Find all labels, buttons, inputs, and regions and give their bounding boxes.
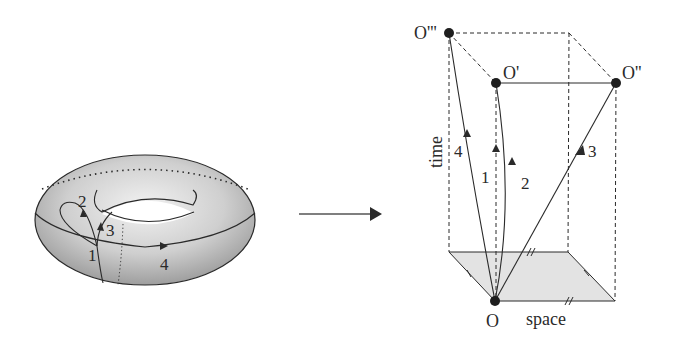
mapping-arrow: [299, 207, 382, 221]
worldline-label-4: 4: [454, 142, 463, 161]
event-o-prime: [491, 78, 501, 88]
space-plane: [449, 252, 615, 301]
torus-diagram: 2 3 1 4: [35, 155, 255, 285]
label-o-prime: O': [503, 63, 519, 83]
event-origin: [490, 296, 500, 306]
torus-label-1: 1: [88, 246, 97, 265]
label-origin: O: [486, 311, 499, 331]
right-arrow-icon: [370, 207, 382, 221]
worldline-1-arrowhead: [492, 144, 500, 152]
worldline-3-arrowhead: [575, 145, 585, 155]
label-o-double-prime: O'': [622, 63, 642, 83]
torus-label-4: 4: [160, 255, 169, 274]
worldline-label-2: 2: [521, 174, 530, 193]
worldline-2-arrowhead: [508, 157, 516, 165]
event-o-triple-prime: [444, 28, 454, 38]
worldline-label-1: 1: [481, 168, 490, 187]
axis-label-time: time: [426, 136, 446, 168]
worldline-label-3: 3: [588, 142, 597, 161]
label-o-triple-prime: O''': [414, 23, 437, 43]
axis-label-space: space: [526, 309, 566, 329]
torus-label-2: 2: [78, 192, 87, 211]
torus-label-3: 3: [106, 221, 115, 240]
event-o-double-prime: [611, 78, 621, 88]
spacetime-diagram: O''' O' O'' O space time 4 1 2 3: [414, 23, 642, 331]
